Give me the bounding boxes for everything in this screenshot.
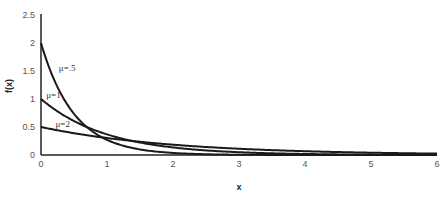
- curves: [41, 43, 437, 155]
- x-tick-label: 2: [170, 159, 175, 169]
- y-axis-ticks: 00.511.522.5: [22, 10, 35, 160]
- curve-μ=2: [41, 127, 437, 154]
- y-tick-label: 2: [30, 38, 35, 48]
- y-tick-label: 1: [30, 94, 35, 104]
- y-tick-label: 0.5: [22, 122, 35, 132]
- y-tick-label: 0: [30, 150, 35, 160]
- x-tick-label: 4: [302, 159, 307, 169]
- x-tick-label: 6: [434, 159, 439, 169]
- curve-label: μ=1: [46, 90, 60, 100]
- x-tick-label: 5: [368, 159, 373, 169]
- curve-μ=.5: [41, 43, 437, 155]
- x-axis-ticks: 0123456: [38, 159, 439, 169]
- curve-label: μ=2: [56, 119, 70, 129]
- curve-μ=1: [41, 99, 437, 155]
- y-tick-label: 1.5: [22, 66, 35, 76]
- x-tick-label: 1: [104, 159, 109, 169]
- y-tick-label: 2.5: [22, 10, 35, 20]
- x-tick-label: 0: [38, 159, 43, 169]
- x-axis-title: x: [236, 182, 241, 192]
- exponential-density-chart: 00.511.522.5 0123456 μ=.5μ=1μ=2 f(x) x: [0, 0, 448, 202]
- curve-label: μ=.5: [59, 63, 76, 73]
- y-axis-title: f(x): [4, 79, 14, 93]
- x-tick-label: 3: [236, 159, 241, 169]
